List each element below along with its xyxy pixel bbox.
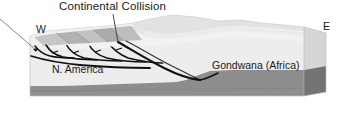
east-side-upper [304,27,326,70]
region-label-n-america: N. America [52,64,103,75]
region-label-gondwana: Gondwana (Africa) [212,60,300,71]
block-diagram-graphic [0,0,338,114]
diagram-title: Continental Collision [59,1,166,13]
continental-collision-diagram: Continental Collision W E N. America Gon… [0,0,338,114]
compass-label-west: W [36,24,46,35]
external-leader-line [0,19,36,50]
east-side-face-group [304,27,326,96]
compass-label-east: E [323,21,330,32]
east-side-lower [304,66,326,96]
